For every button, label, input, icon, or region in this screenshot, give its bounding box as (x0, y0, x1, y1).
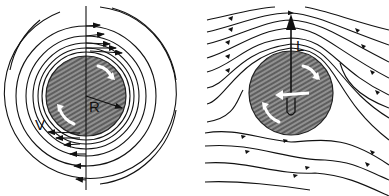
lift-label: L (296, 38, 304, 53)
magnus-panel: L U (195, 0, 389, 196)
vortex-panel: R V (0, 0, 195, 196)
radius-label: R (89, 99, 100, 114)
lift-arrowhead-icon (286, 14, 296, 30)
freestream-arrow (281, 93, 309, 95)
velocity-label: V (35, 117, 45, 132)
freestream-label: U (284, 98, 295, 113)
